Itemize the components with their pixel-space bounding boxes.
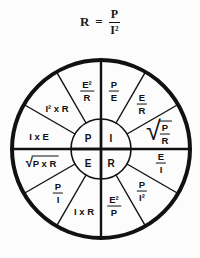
segment-formula-I2xR: I² x R xyxy=(45,103,68,114)
segment-formula-E-over-R: ER xyxy=(137,93,147,116)
center-letter-E: E xyxy=(85,158,92,169)
segment-formula-IxE: I x E xyxy=(29,131,49,142)
segment-formula-E2-over-R: E²R xyxy=(80,80,94,103)
center-letter-R: R xyxy=(107,158,114,169)
segment-formula-sqrt-P-over-R: √ PR xyxy=(146,121,172,146)
center-letter-I: I xyxy=(110,133,113,144)
segment-formula-P-over-I: PI xyxy=(53,182,63,205)
segment-formula-sqrt-PxR: √ P x R xyxy=(26,156,59,169)
wheel-spoke xyxy=(127,164,178,194)
segment-formula-P-over-I2: PI² xyxy=(137,180,147,203)
center-letter-P: P xyxy=(85,133,92,144)
segment-formula-E2-over-P: E²P xyxy=(107,195,121,218)
segment-formula-E-over-I: EI xyxy=(156,152,166,175)
segment-formula-IxR: I x R xyxy=(74,206,94,217)
segment-formula-P-over-E: PE xyxy=(109,80,119,103)
